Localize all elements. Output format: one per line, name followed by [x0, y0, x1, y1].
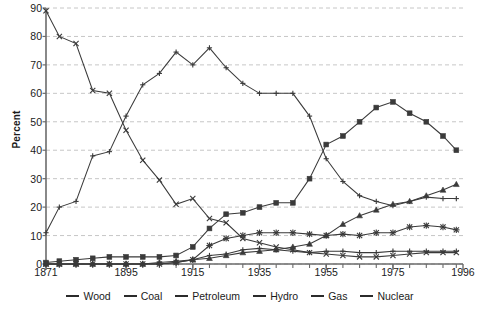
legend-label: Petroleum	[192, 290, 240, 302]
series-nuclear	[43, 222, 460, 267]
x-tick-label: 1955	[315, 266, 338, 278]
series-gas	[43, 181, 459, 266]
x-tick-label: 1895	[114, 266, 137, 278]
x-tick-label: 1996	[451, 266, 474, 278]
energy-share-line-chart: Percent 0102030405060708090 187118951915…	[0, 0, 480, 311]
plot-area	[0, 0, 480, 311]
x-tick-label: 1935	[248, 266, 271, 278]
legend-label: Wood	[83, 290, 110, 302]
legend-label: Nuclear	[377, 290, 413, 302]
legend-label: Coal	[141, 290, 163, 302]
legend-line-swatch	[175, 295, 188, 298]
legend-label: Gas	[328, 290, 347, 302]
legend-line-swatch	[253, 295, 266, 298]
series-wood	[43, 8, 459, 259]
chart-legend: WoodCoalPetroleumHydroGasNuclear	[0, 290, 480, 302]
legend-item-coal[interactable]: Coal	[124, 290, 163, 302]
x-tick-label: 1915	[181, 266, 204, 278]
legend-line-swatch	[311, 295, 324, 298]
x-tick-label: 1871	[34, 266, 57, 278]
legend-label: Hydro	[270, 290, 298, 302]
legend-line-swatch	[124, 295, 137, 298]
legend-item-petroleum[interactable]: Petroleum	[175, 290, 240, 302]
legend-item-nuclear[interactable]: Nuclear	[360, 290, 413, 302]
legend-item-gas[interactable]: Gas	[311, 290, 347, 302]
legend-line-swatch	[66, 295, 79, 298]
legend-item-hydro[interactable]: Hydro	[253, 290, 298, 302]
legend-item-wood[interactable]: Wood	[66, 290, 110, 302]
x-tick-label: 1975	[381, 266, 404, 278]
legend-line-swatch	[360, 295, 373, 298]
